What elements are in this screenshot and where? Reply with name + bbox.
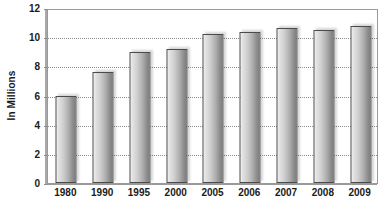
- bar-2009[interactable]: [350, 26, 371, 183]
- x-tick-label-2005: 2005: [201, 188, 223, 198]
- y-tick-label-10: 10: [29, 33, 40, 43]
- y-tickmark-0: [44, 184, 48, 185]
- bar-2000[interactable]: [166, 49, 187, 183]
- bar-slot-1995: [122, 10, 159, 183]
- plot-area: [47, 9, 378, 184]
- bar-2008[interactable]: [313, 30, 334, 183]
- y-tick-label-0: 0: [34, 179, 40, 189]
- y-tick-label-8: 8: [34, 62, 40, 72]
- x-axis-tick-labels: 198019901995200020052006200720082009: [47, 188, 378, 206]
- y-axis-tick-labels: 024681012: [22, 9, 44, 184]
- bar-slot-2005: [195, 10, 232, 183]
- y-tick-label-2: 2: [34, 150, 40, 160]
- bar-2007[interactable]: [277, 28, 298, 183]
- y-axis-title-text: In Millions: [6, 70, 17, 120]
- x-tick-label-1995: 1995: [128, 188, 150, 198]
- bar-slot-2007: [269, 10, 306, 183]
- bar-slot-1990: [85, 10, 122, 183]
- y-tick-label-4: 4: [34, 121, 40, 131]
- bar-1990[interactable]: [93, 72, 114, 183]
- gridline-0: [48, 184, 377, 185]
- bar-2005[interactable]: [203, 34, 224, 183]
- bar-1980[interactable]: [56, 96, 77, 184]
- bar-slot-2008: [305, 10, 342, 183]
- bar-chart: In Millions 024681012 198019901995200020…: [0, 0, 390, 210]
- x-tick-label-2008: 2008: [312, 188, 334, 198]
- x-tick-label-2007: 2007: [275, 188, 297, 198]
- x-tick-label-2006: 2006: [238, 188, 260, 198]
- bar-slot-1980: [48, 10, 85, 183]
- bar-1995[interactable]: [129, 52, 150, 183]
- y-axis-title: In Millions: [0, 0, 22, 190]
- bar-slot-2009: [342, 10, 379, 183]
- y-tick-label-12: 12: [29, 4, 40, 14]
- bar-slot-2006: [232, 10, 269, 183]
- bar-slot-2000: [158, 10, 195, 183]
- x-tick-label-2009: 2009: [348, 188, 370, 198]
- x-tick-label-1990: 1990: [91, 188, 113, 198]
- bar-2006[interactable]: [240, 32, 261, 183]
- bars-layer: [48, 10, 377, 183]
- x-tick-label-1980: 1980: [54, 188, 76, 198]
- x-tick-label-2000: 2000: [165, 188, 187, 198]
- y-tick-label-6: 6: [34, 92, 40, 102]
